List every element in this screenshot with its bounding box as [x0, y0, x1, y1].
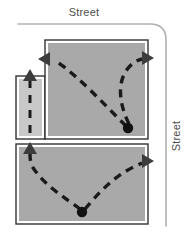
left-arrow-upper-icon	[38, 52, 50, 66]
street-label-right: Street	[170, 121, 182, 152]
street-label-top: Street	[69, 6, 100, 18]
up-arrow-aisle-icon	[23, 69, 37, 81]
upper-parking-lot	[45, 40, 148, 139]
diagram-canvas: Street Street	[0, 0, 185, 234]
upper-parking-lot-fill	[48, 43, 145, 136]
site-circulation-diagram: Street Street	[0, 0, 185, 234]
lower-origin-dot	[77, 207, 87, 217]
upper-origin-dot	[123, 123, 133, 133]
